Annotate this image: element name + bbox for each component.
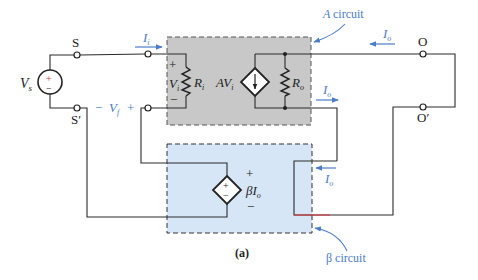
gain-label: AVi <box>215 75 233 92</box>
ii-label: Ii <box>142 30 150 47</box>
beta-out-minus: − <box>247 199 254 214</box>
beta-circuit-title: β circuit <box>326 251 366 265</box>
feedback-circuit-diagram: Vs + − S S′ O O′ Ii − Vf + + Vi − Ri AVi… <box>0 0 478 280</box>
figure-caption: (a) <box>235 246 249 260</box>
beta-source-minus: − <box>223 190 229 201</box>
io-mid-label: Io <box>322 82 331 99</box>
node-dot <box>283 52 287 56</box>
a-circuit-title-rest: circuit <box>333 7 364 21</box>
terminal-s <box>74 52 80 58</box>
vs-minus: − <box>46 83 52 94</box>
terminal-o-prime-label: O′ <box>417 110 429 125</box>
terminal-s-label: S <box>72 35 79 50</box>
terminal-vf <box>145 105 151 111</box>
terminal-o <box>420 51 426 57</box>
vi-plus: + <box>169 57 176 72</box>
vf-minus: − <box>95 100 102 115</box>
io-top-label: Io <box>382 26 391 43</box>
node-dot <box>283 106 287 110</box>
terminal-input <box>145 51 151 57</box>
terminal-s-prime <box>74 105 80 111</box>
beta-out-plus: + <box>246 166 253 181</box>
vs-label: Vs <box>20 76 33 93</box>
beta-circuit-pointer-icon <box>315 228 347 251</box>
terminal-o-label: O <box>418 34 427 49</box>
vf-label: Vf <box>109 100 121 117</box>
vi-minus: − <box>170 92 177 107</box>
a-circuit-pointer-icon <box>314 24 345 42</box>
io-low-label: Io <box>324 171 333 188</box>
a-circuit-box <box>167 37 311 125</box>
terminal-s-prime-label: S′ <box>71 112 81 127</box>
vf-plus: + <box>127 100 134 115</box>
